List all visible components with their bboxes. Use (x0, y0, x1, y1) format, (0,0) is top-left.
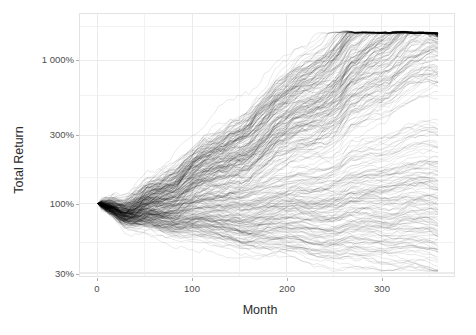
y-tick-100: 100% (50, 199, 74, 209)
x-axis-title: Month (0, 303, 476, 317)
x-tick-300: 300 (374, 283, 390, 294)
x-axis-title-text: Month (243, 303, 278, 317)
y-axis-title: Total Return (9, 100, 29, 220)
x-tickmark-0 (97, 278, 98, 281)
x-axis-tick-labels: 0 100 200 300 (0, 283, 476, 297)
simulated-return-paths (98, 31, 438, 272)
y-tickmark-100 (76, 204, 79, 205)
figure-canvas: 1 000% 300% 100% 30% 0 100 200 300 Total… (0, 0, 476, 335)
x-tickmark-300 (382, 278, 383, 281)
plot-area (80, 14, 454, 276)
x-tick-200: 200 (279, 283, 295, 294)
x-tick-100: 100 (184, 283, 200, 294)
x-tickmark-100 (192, 278, 193, 281)
y-tickmark-1000 (76, 60, 79, 61)
y-tick-300: 300% (50, 130, 74, 140)
plot-panel (79, 13, 455, 277)
y-tickmark-30 (76, 274, 79, 275)
figure-caption (0, 327, 476, 335)
y-tick-30: 30% (55, 269, 74, 279)
y-tick-1000: 1 000% (42, 55, 74, 65)
y-tickmark-300 (76, 135, 79, 136)
x-tickmark-200 (287, 278, 288, 281)
y-axis-title-text: Total Return (12, 126, 26, 193)
x-tick-0: 0 (94, 283, 99, 294)
